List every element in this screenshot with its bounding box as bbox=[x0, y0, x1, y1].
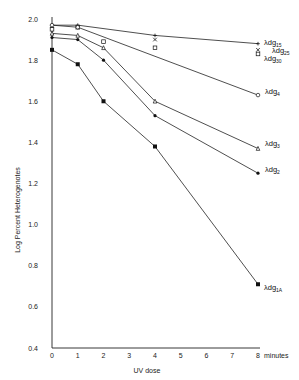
x-tick-label: 5 bbox=[179, 352, 183, 359]
x-tick-label: 0 bbox=[50, 352, 54, 359]
data-point-open-square bbox=[153, 46, 157, 50]
data-point-filled-circle bbox=[256, 172, 259, 175]
y-tick-label: 1.2 bbox=[28, 180, 38, 187]
chart: 0.40.60.81.01.21.41.61.82.0 012345678 λd… bbox=[0, 0, 299, 380]
data-point-open-triangle bbox=[102, 46, 106, 50]
data-point-cross bbox=[153, 38, 157, 42]
y-axis-title: Log Percent Heterogenotes bbox=[14, 167, 22, 253]
series-labels: λdg15λdg25λdg30λdg4λdg3λdg2λdg1A bbox=[264, 38, 290, 293]
data-point-open-square bbox=[256, 52, 260, 56]
x-tick-label: 3 bbox=[127, 352, 131, 359]
data-point-open-triangle bbox=[50, 31, 54, 35]
data-point-plus bbox=[153, 34, 157, 38]
y-tick-label: 1.0 bbox=[28, 221, 38, 228]
x-tick-label: 7 bbox=[230, 352, 234, 359]
data-point-filled-square bbox=[153, 144, 157, 148]
x-axis-unit: minutes bbox=[264, 352, 289, 359]
series-line bbox=[52, 38, 258, 174]
data-point-cross bbox=[256, 48, 260, 52]
data-point-filled-square bbox=[50, 48, 54, 52]
series-markers bbox=[50, 23, 260, 286]
x-tick-label: 1 bbox=[76, 352, 80, 359]
series-label: λdg3 bbox=[265, 139, 280, 149]
y-tick-label: 2.0 bbox=[28, 16, 38, 23]
y-tick-label: 1.4 bbox=[28, 139, 38, 146]
data-point-filled-circle bbox=[153, 114, 156, 117]
y-tick-label: 0.4 bbox=[28, 345, 38, 352]
series-line bbox=[52, 33, 258, 148]
data-point-open-triangle bbox=[256, 146, 260, 150]
x-tick-label: 6 bbox=[205, 352, 209, 359]
y-tick-label: 0.8 bbox=[28, 262, 38, 269]
data-point-open-triangle bbox=[76, 33, 80, 37]
series-label: λdg30 bbox=[264, 54, 282, 64]
x-axis-title: UV dose bbox=[134, 367, 161, 374]
data-point-filled-square bbox=[256, 282, 260, 286]
data-point-filled-circle bbox=[50, 36, 53, 39]
data-point-filled-square bbox=[102, 99, 106, 103]
data-point-filled-circle bbox=[76, 38, 79, 41]
series-label: λdg4 bbox=[265, 87, 280, 97]
series-label: λdg2 bbox=[265, 165, 280, 175]
data-point-plus bbox=[256, 42, 260, 46]
series-line bbox=[52, 50, 258, 284]
x-tick-label: 4 bbox=[153, 352, 157, 359]
data-point-open-square bbox=[102, 40, 106, 44]
x-tick-label: 8 bbox=[256, 352, 260, 359]
x-tick-label: 2 bbox=[102, 352, 106, 359]
x-axis-ticks: 012345678 bbox=[50, 352, 260, 359]
y-tick-label: 1.6 bbox=[28, 98, 38, 105]
series-label: λdg1A bbox=[264, 283, 283, 293]
series-lines bbox=[52, 25, 258, 284]
data-point-filled-circle bbox=[102, 59, 105, 62]
data-point-open-circle bbox=[50, 23, 54, 27]
y-tick-label: 1.8 bbox=[28, 57, 38, 64]
data-point-open-circle bbox=[256, 93, 260, 97]
axes bbox=[52, 17, 260, 348]
data-point-open-circle bbox=[76, 25, 80, 29]
data-point-filled-square bbox=[76, 62, 80, 66]
y-tick-label: 0.6 bbox=[28, 303, 38, 310]
y-axis-ticks: 0.40.60.81.01.21.41.61.82.0 bbox=[28, 16, 38, 352]
